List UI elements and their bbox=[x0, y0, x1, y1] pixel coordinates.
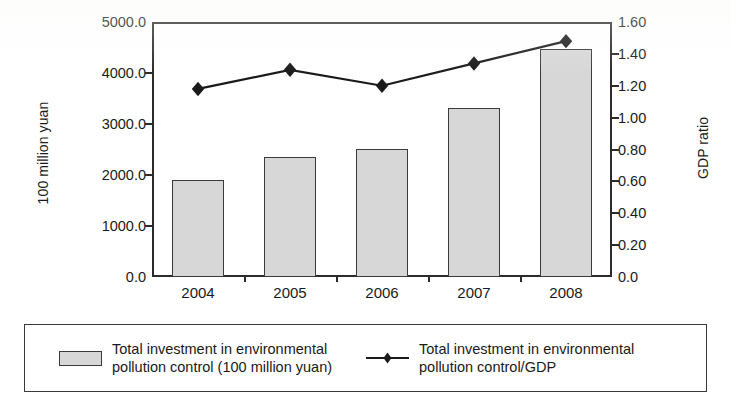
y-axis-right-tick-label: 1.20 bbox=[618, 79, 678, 93]
x-axis-label-2007: 2007 bbox=[428, 284, 520, 301]
y-axis-left-tick-label: 0.0 bbox=[0, 270, 146, 284]
y-axis-right-tick-label: 0.80 bbox=[618, 143, 678, 157]
chart-legend: Total investment in environmental pollut… bbox=[24, 324, 707, 392]
y-axis-left-tick-label: 3000.0 bbox=[0, 117, 146, 131]
line-marker-2004 bbox=[192, 82, 204, 96]
line-marker-2005 bbox=[284, 63, 296, 77]
x-axis-label-2008: 2008 bbox=[520, 284, 612, 301]
x-axis-label-2006: 2006 bbox=[336, 284, 428, 301]
y-axis-right-tick-label: 0.20 bbox=[618, 238, 678, 252]
y-axis-right-ticks: 0.00.200.400.600.801.001.201.401.60 bbox=[618, 0, 678, 312]
line-marker-2006 bbox=[376, 79, 388, 93]
legend-entry-line: Total investment in environmental pollut… bbox=[366, 340, 634, 376]
y-axis-right-tick-mark bbox=[612, 244, 619, 246]
y-axis-left-tick-label: 5000.0 bbox=[0, 15, 146, 29]
y-axis-right-tick-label: 0.60 bbox=[618, 174, 678, 188]
y-axis-left-tick-mark bbox=[145, 123, 152, 125]
y-axis-right-tick-mark bbox=[612, 85, 619, 87]
legend-bar-label: Total investment in environmental pollut… bbox=[112, 340, 332, 376]
y-axis-right-tick-mark bbox=[612, 149, 619, 151]
x-axis-label-2005: 2005 bbox=[244, 284, 336, 301]
y-axis-right-title: GDP ratio bbox=[695, 93, 711, 203]
line-marker-2007 bbox=[468, 56, 480, 70]
legend-entry-bar: Total investment in environmental pollut… bbox=[59, 340, 332, 376]
y-axis-right-tick-mark bbox=[612, 53, 619, 55]
y-axis-left-ticks: 0.01000.02000.03000.04000.05000.0 bbox=[0, 0, 146, 312]
x-axis-label-2004: 2004 bbox=[152, 284, 244, 301]
y-axis-right-tick-label: 1.60 bbox=[618, 15, 678, 29]
y-axis-right-tick-mark bbox=[612, 180, 619, 182]
y-axis-left-tick-label: 4000.0 bbox=[0, 66, 146, 80]
y-axis-right-tick-mark bbox=[612, 212, 619, 214]
y-axis-right-tick-label: 1.40 bbox=[618, 47, 678, 61]
legend-bar-swatch-icon bbox=[59, 351, 102, 366]
y-axis-right-tick-label: 0.40 bbox=[618, 206, 678, 220]
chart-figure: 100 million yuan GDP ratio 0.01000.02000… bbox=[0, 0, 731, 414]
legend-line-marker-icon bbox=[366, 351, 409, 365]
y-axis-right-tick-label: 1.00 bbox=[618, 111, 678, 125]
y-axis-left-tick-label: 2000.0 bbox=[0, 168, 146, 182]
line-marker-2008 bbox=[560, 34, 572, 48]
y-axis-left-tick-label: 1000.0 bbox=[0, 219, 146, 233]
line-series-layer bbox=[152, 22, 612, 277]
legend-line-label: Total investment in environmental pollut… bbox=[419, 340, 634, 376]
y-axis-right-tick-mark bbox=[612, 117, 619, 119]
y-axis-left-tick-mark bbox=[145, 174, 152, 176]
y-axis-left-tick-mark bbox=[145, 225, 152, 227]
y-axis-right-tick-label: 0.0 bbox=[618, 270, 678, 284]
chart-plot-region: 100 million yuan GDP ratio 0.01000.02000… bbox=[0, 0, 731, 312]
y-axis-left-tick-mark bbox=[145, 72, 152, 74]
